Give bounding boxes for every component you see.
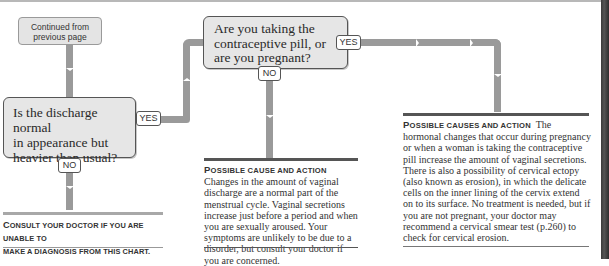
top-rule xyxy=(0,0,602,2)
start-box-line1: Continued from xyxy=(31,22,89,32)
question-line: Are you taking the xyxy=(214,22,347,37)
start-box-line2: previous page xyxy=(31,32,89,42)
question-line: contraceptive pill, or xyxy=(214,37,347,52)
question-line: are you pregnant? xyxy=(214,51,347,66)
outcome-no-panel: Possible cause and action Changes in the… xyxy=(204,164,360,266)
question-box-discharge-normal: Is the discharge normal in appearance bu… xyxy=(3,97,136,158)
outcome-no-bottom-rule xyxy=(204,247,358,248)
arrow-chevron-icon xyxy=(183,78,191,81)
outcome-no-top-rule xyxy=(204,158,358,161)
arrow-chevron-icon xyxy=(416,39,419,47)
outcome-yes-heading: Possible causes and action xyxy=(403,121,531,130)
connector-start-to-q1 xyxy=(66,45,73,97)
consult-top-rule xyxy=(3,212,163,215)
q1-no-tag[interactable]: NO xyxy=(58,158,81,173)
connector-q2-no xyxy=(266,80,273,158)
outcome-yes-top-rule xyxy=(403,113,589,116)
arrow-chevron-icon xyxy=(494,74,502,77)
connector-q1-yes-vertical xyxy=(183,42,190,123)
outcome-yes-panel: Possible causes and action The hormonal … xyxy=(403,119,591,243)
heading-rest: ossible causes and action xyxy=(410,121,531,130)
consult-line1: onsult your doctor if you are unable to xyxy=(3,221,144,243)
connector-q2-yes-horizontal xyxy=(361,39,501,46)
connector-q1-yes-top xyxy=(183,39,203,46)
q2-no-tag[interactable]: NO xyxy=(258,66,281,81)
page-edge-bar xyxy=(601,0,609,259)
arrow-chevron-icon xyxy=(66,68,74,71)
heading-rest: ossible cause and action xyxy=(211,166,327,175)
consult-bottom-rule xyxy=(3,247,163,248)
continued-from-previous-page-box: Continued from previous page xyxy=(18,17,102,45)
outcome-yes-bottom-rule xyxy=(403,246,589,247)
question-line: Is the discharge normal xyxy=(13,105,135,135)
outcome-no-heading: Possible cause and action xyxy=(204,166,327,175)
question-box-contraceptive-pill: Are you taking the contraceptive pill, o… xyxy=(203,16,348,69)
drop-cap: C xyxy=(3,220,10,230)
outcome-no-body: Changes in the amount of vaginal dischar… xyxy=(204,176,358,265)
outcome-yes-body: The hormonal changes that occur during p… xyxy=(403,119,591,243)
connector-q1-no xyxy=(66,173,73,210)
question-line: in appearance but xyxy=(13,135,135,150)
arrow-chevron-icon xyxy=(66,186,74,189)
consult-doctor-note: Consult your doctor if you are unable to… xyxy=(3,219,163,258)
q1-yes-tag[interactable]: YES xyxy=(136,111,161,126)
arrow-chevron-icon xyxy=(266,115,274,118)
q2-yes-tag[interactable]: YES xyxy=(336,35,361,50)
arrow-chevron-icon xyxy=(470,39,473,47)
